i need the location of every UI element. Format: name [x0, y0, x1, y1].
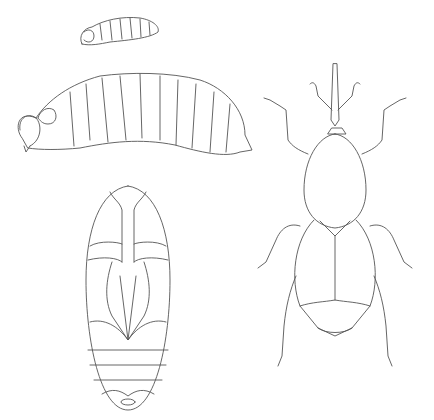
weevil-life-cycle-illustration [0, 0, 434, 420]
midleg-right [370, 225, 412, 268]
rostrum [331, 64, 339, 126]
midleg-left [258, 225, 300, 268]
foreleg-left [264, 98, 308, 154]
pronotum [304, 134, 366, 228]
adult-weevil [258, 64, 412, 366]
hindleg-right [374, 276, 392, 366]
small-larva [81, 17, 159, 44]
pupa [86, 186, 170, 410]
antenna-right [338, 83, 360, 110]
hindleg-left [278, 276, 296, 366]
antenna-left [310, 83, 332, 110]
foreleg-right [362, 98, 406, 154]
larva [18, 73, 252, 154]
